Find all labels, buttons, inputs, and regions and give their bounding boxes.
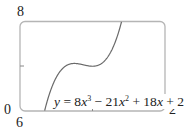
y-min-label: 6 bbox=[16, 116, 23, 130]
eq-part: − 21 bbox=[91, 94, 119, 109]
y-max-label: 8 bbox=[17, 5, 24, 19]
equation-label: y = 8x3 − 21x2 + 18x + 2 bbox=[54, 94, 184, 109]
x-min-label: 0 bbox=[4, 103, 11, 117]
eq-part: + 2 bbox=[163, 94, 184, 109]
eq-part: = 8 bbox=[60, 94, 81, 109]
eq-part: + 18 bbox=[129, 94, 157, 109]
plot-area bbox=[0, 0, 185, 135]
